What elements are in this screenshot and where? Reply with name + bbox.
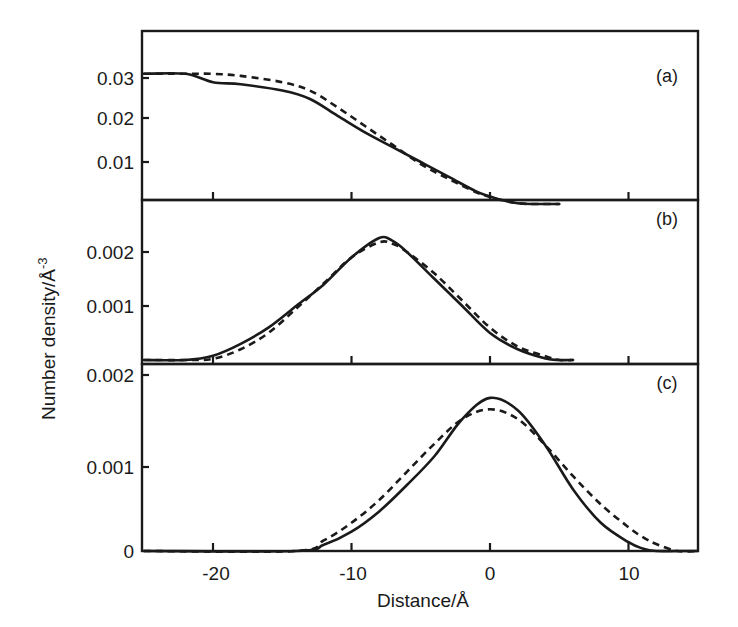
svg-text:Number density/Å-3: Number density/Å-3 xyxy=(35,257,59,420)
y-axis-label-superscript: -3 xyxy=(35,257,50,269)
ytick-b-0.001: 0.001 xyxy=(86,296,134,317)
ytick-a-0.02: 0.02 xyxy=(97,108,134,129)
panel-c-frame xyxy=(142,364,698,551)
ytick-c-0.002: 0.002 xyxy=(86,365,134,386)
x-axis-label: Distance/Å xyxy=(377,590,469,611)
panel-a-solid-curve xyxy=(144,73,560,204)
panel-a-dashed-curve xyxy=(144,74,560,204)
panel-b-label: (b) xyxy=(656,209,678,229)
panel-b-frame xyxy=(142,200,698,364)
panel-a-label: (a) xyxy=(656,66,678,86)
panel-c-dashed-curve xyxy=(144,409,698,552)
y-axis-label: Number density/Å-3 xyxy=(35,257,59,420)
ytick-c-0.001: 0.001 xyxy=(86,457,134,478)
panel-c-label: (c) xyxy=(657,373,678,393)
y-axis-label-text: Number density/Å xyxy=(38,269,59,420)
ticks xyxy=(142,78,629,551)
panel-c-solid-curve xyxy=(144,398,698,552)
xtick-neg10: -10 xyxy=(339,563,366,584)
ytick-a-0.01: 0.01 xyxy=(97,152,134,173)
panel-b-dashed-curve xyxy=(144,241,573,360)
xtick-10: 10 xyxy=(618,563,639,584)
ytick-a-0.03: 0.03 xyxy=(97,68,134,89)
xtick-neg20: -20 xyxy=(202,563,229,584)
panel-b-solid-curve xyxy=(144,237,573,360)
curves xyxy=(144,73,698,552)
xtick-0: 0 xyxy=(485,563,496,584)
figure: (a) (b) (c) 0.03 0.02 0.01 0.002 0.001 0… xyxy=(0,0,738,627)
ytick-b-0.002: 0.002 xyxy=(86,242,134,263)
ytick-c-0: 0 xyxy=(123,541,134,562)
panel-a-frame xyxy=(142,31,698,200)
